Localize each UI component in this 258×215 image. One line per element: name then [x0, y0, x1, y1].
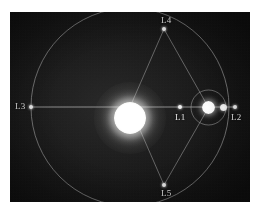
l5-label: L5	[161, 189, 172, 198]
earth-to-l4-line	[164, 29, 209, 108]
lagrange-points-figure: L3 L1 L2 L4 L5	[0, 0, 258, 215]
sun-body	[114, 102, 146, 134]
l2-label: L2	[231, 113, 242, 122]
page-header-strip	[0, 0, 258, 11]
l5-point-marker	[162, 183, 166, 187]
earth-to-l5-line	[164, 108, 209, 186]
l3-label: L3	[15, 102, 26, 111]
diagram-scene: L3 L1 L2 L4 L5	[10, 12, 250, 202]
sun-to-l4-line	[130, 29, 164, 107]
l1-point-marker	[178, 105, 182, 109]
l4-point-marker	[162, 27, 166, 31]
l1-label: L1	[175, 113, 186, 122]
earth-body	[202, 101, 215, 114]
l4-label: L4	[161, 16, 172, 25]
diagram-plate: L3 L1 L2 L4 L5	[10, 12, 250, 202]
l2-point-marker	[233, 105, 237, 109]
moon-body	[220, 104, 227, 111]
l3-point-marker	[29, 105, 33, 109]
